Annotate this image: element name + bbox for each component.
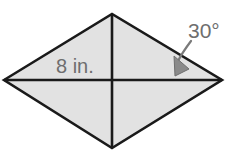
geometry-figure-container: 8 in. 30° — [0, 0, 230, 168]
angle-measure-label: 30° — [188, 19, 220, 42]
rhombus-diagram-svg: 8 in. 30° — [0, 0, 230, 168]
side-length-label: 8 in. — [56, 55, 94, 77]
